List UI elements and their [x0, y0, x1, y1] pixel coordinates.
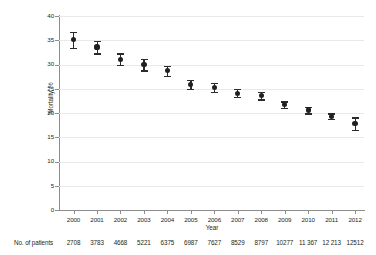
marker-dot: [118, 57, 123, 62]
error-bar-cap-upper: [141, 59, 148, 60]
error-bar-cap-lower: [141, 70, 148, 71]
patients-count-label: No. of patients: [14, 238, 53, 247]
marker-dot: [259, 93, 264, 98]
marker-dot: [212, 85, 217, 90]
y-tick-label: 0: [34, 207, 54, 213]
x-tick-mark: [308, 210, 309, 214]
y-tick-label: 15: [34, 134, 54, 140]
x-tick-mark: [191, 210, 192, 214]
x-tick-mark: [355, 210, 356, 214]
x-axis-line: [59, 210, 365, 211]
marker-dot: [165, 68, 170, 73]
error-bar-cap-lower: [164, 76, 171, 77]
patients-count-value: 12512: [338, 238, 372, 247]
error-bar-cap-lower: [281, 108, 288, 109]
mortality-by-year-figure: Mortality, % 0510152025303540 2000200120…: [0, 0, 376, 255]
error-bar-cap-upper: [187, 80, 194, 81]
error-bar-cap-lower: [328, 119, 335, 120]
x-axis-title: Year: [59, 224, 365, 231]
marker-dot: [235, 91, 240, 96]
error-bar-cap-lower: [305, 113, 312, 114]
error-bar-cap-lower: [211, 92, 218, 93]
marker-dot: [188, 82, 193, 87]
error-bar-cap-lower: [234, 97, 241, 98]
y-tick-label: 30: [34, 61, 54, 67]
error-bar-cap-lower: [117, 65, 124, 66]
x-tick-mark: [144, 210, 145, 214]
error-bar-cap-upper: [211, 83, 218, 84]
x-tick-mark: [261, 210, 262, 214]
x-tick-mark: [120, 210, 121, 214]
error-bar-cap-upper: [164, 66, 171, 67]
marker-dot: [71, 37, 76, 42]
y-tick-mark: [55, 210, 59, 211]
x-tick-mark: [285, 210, 286, 214]
x-tick-label: 2012: [340, 216, 370, 223]
plot-area: [59, 16, 364, 210]
error-bar-cap-lower: [70, 48, 77, 49]
x-tick-mark: [97, 210, 98, 214]
marker-dot: [329, 114, 334, 119]
error-bar-cap-upper: [352, 117, 359, 118]
x-tick-mark: [167, 210, 168, 214]
patients-count-row: No. of patients 270837834668522163756987…: [0, 238, 376, 250]
marker-dot: [306, 107, 311, 112]
error-bar-cap-lower: [258, 99, 265, 100]
error-bar-cap-lower: [94, 53, 101, 54]
marker-dot: [141, 62, 146, 67]
marker-dot: [94, 44, 99, 49]
error-bar-cap-upper: [117, 53, 124, 54]
error-bar-cap-upper: [70, 32, 77, 33]
marker-dot: [352, 121, 357, 126]
x-tick-mark: [332, 210, 333, 214]
y-tick-label: 10: [34, 158, 54, 164]
error-bar-cap-lower: [187, 89, 194, 90]
y-tick-label: 5: [34, 183, 54, 189]
error-bar-cap-upper: [94, 41, 101, 42]
x-tick-mark: [214, 210, 215, 214]
marker-dot: [282, 102, 287, 107]
y-tick-label: 20: [34, 110, 54, 116]
y-tick-label: 40: [34, 13, 54, 19]
error-bar-cap-lower: [352, 130, 359, 131]
x-tick-mark: [238, 210, 239, 214]
y-tick-label: 25: [34, 86, 54, 92]
x-tick-mark: [74, 210, 75, 214]
y-tick-label: 35: [34, 37, 54, 43]
